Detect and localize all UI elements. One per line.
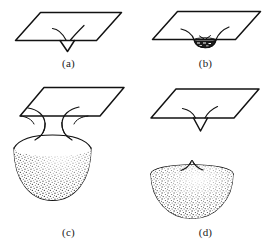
neck-curve-right-b <box>216 27 229 40</box>
neck-hook-right-c <box>74 116 88 124</box>
panel-label-b: (b) <box>137 57 274 69</box>
panel-c-artwork <box>0 78 137 250</box>
panel-d: (d) <box>137 78 274 250</box>
neck-curve-left-b <box>181 29 194 40</box>
membrane-plane-b <box>153 12 261 40</box>
pucker-curve-left-a <box>53 29 67 41</box>
panel-label-d: (d) <box>137 226 274 238</box>
pucker-curve-right-a <box>71 26 85 41</box>
panel-label-c: (c) <box>0 226 137 238</box>
panel-label-a: (a) <box>0 57 137 69</box>
pucker-curve-left-d <box>183 109 196 119</box>
panel-c: (c) <box>0 78 137 250</box>
vesicle-dimple-peak-d <box>190 160 194 164</box>
pucker-curve-right-d <box>205 107 218 119</box>
membrane-plane-d <box>151 89 259 118</box>
v-notch-d <box>194 118 208 131</box>
bud-rim-c <box>14 135 91 148</box>
panel-d-artwork <box>137 78 274 250</box>
membrane-plane-a <box>16 13 122 41</box>
bud-stipple-b <box>195 41 216 48</box>
v-notch-a <box>60 41 75 52</box>
panel-a: (a) <box>0 0 137 78</box>
bud-stipple-c <box>10 133 98 205</box>
vesicle-stipple-d <box>147 163 239 223</box>
figure-root: (a) <box>0 0 274 250</box>
membrane-plane-c <box>20 88 124 117</box>
neck-hook-left-c <box>21 116 35 124</box>
panel-b: (b) <box>137 0 274 78</box>
